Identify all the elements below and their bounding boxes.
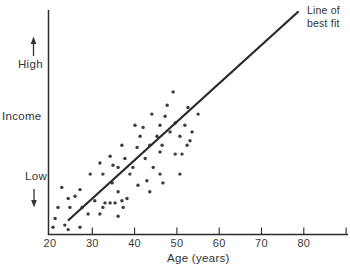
scatter-point [63, 223, 66, 226]
x-tick-label: 70 [255, 237, 268, 249]
scatter-point [122, 206, 125, 209]
scatter-point [163, 115, 166, 118]
scatter-point [116, 215, 119, 218]
scatter-point [178, 135, 181, 138]
scatter-point [144, 157, 147, 160]
scatter-point [180, 152, 183, 155]
scatter-point [101, 172, 104, 175]
scatter-point [161, 181, 164, 184]
scatter-point [145, 179, 148, 182]
scatter-point [196, 112, 199, 115]
scatter-point [101, 206, 104, 209]
low-arrow-icon [31, 189, 37, 208]
scatter-point [67, 228, 70, 231]
scatter-point [136, 184, 139, 187]
scatter-point [78, 188, 81, 191]
scatter-point [148, 190, 151, 193]
scatter-point [56, 206, 59, 209]
x-tick-label: 30 [86, 237, 99, 249]
scatter-point [53, 217, 56, 220]
scatter-point [125, 197, 128, 200]
best-fit-label-line2: best fit [307, 17, 340, 30]
scatter-point [150, 112, 153, 115]
scatter-point [158, 172, 161, 175]
x-tick-label: 80 [297, 237, 310, 249]
scatter-point [185, 144, 188, 147]
scatter-point [73, 195, 76, 198]
scatter-point [98, 161, 101, 164]
scatter-point [131, 166, 134, 169]
scatter-point [116, 166, 119, 169]
scatter-point [116, 190, 119, 193]
x-tick-label: 40 [128, 237, 141, 249]
scatter-point [103, 201, 106, 204]
scatter-point [120, 199, 123, 202]
scatter-point [158, 150, 161, 153]
scatter-point [166, 104, 169, 107]
scatter-point [186, 106, 189, 109]
scatter-point [113, 201, 116, 204]
scatter-point [78, 226, 81, 229]
scatter-point [133, 124, 136, 127]
scatter-point [174, 152, 177, 155]
y-axis-title: Income [2, 110, 42, 122]
best-fit-label: Line of best fit [307, 4, 340, 29]
x-axis-title: Age (years) [167, 252, 230, 264]
scatter-point [128, 172, 131, 175]
scatter-point [171, 90, 174, 93]
scatter-point [190, 130, 193, 133]
scatter-point [68, 206, 71, 209]
x-tick-label: 50 [170, 237, 183, 249]
scatter-figure: High Income Low 20304050607080 Age (year… [0, 0, 350, 279]
scatter-point [158, 124, 161, 127]
scatter-point [51, 226, 54, 229]
y-high-label: High [18, 58, 43, 70]
scatter-point [168, 130, 171, 133]
x-tick-label: 20 [44, 237, 57, 249]
best-fit-label-line1: Line of [307, 4, 340, 17]
high-arrow-icon [31, 37, 37, 57]
scatter-point [178, 172, 181, 175]
scatter-point [135, 146, 138, 149]
scatter-point [108, 201, 111, 204]
scatter-point [67, 197, 70, 200]
x-tick-label: 60 [213, 237, 226, 249]
scatter-point [138, 135, 141, 138]
scatter-point [93, 199, 96, 202]
scatter-point [160, 144, 163, 147]
scatter-point [188, 139, 191, 142]
scatter-point [89, 172, 92, 175]
scatter-point [60, 186, 63, 189]
scatter-point [183, 124, 186, 127]
best-fit-line [69, 12, 298, 220]
scatter-point [123, 157, 126, 160]
scatter-point [141, 126, 144, 129]
scatter-point [98, 212, 101, 215]
scatter-point [86, 212, 89, 215]
scatter-point [152, 166, 155, 169]
scatter-point [111, 164, 114, 167]
scatter-point [120, 144, 123, 147]
y-low-label: Low [25, 170, 47, 182]
scatter-point [108, 155, 111, 158]
